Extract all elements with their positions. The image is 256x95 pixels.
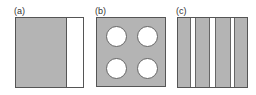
panel-a-label: (a) (14, 6, 25, 16)
panel-b-label: (b) (95, 6, 106, 16)
hole-bottom-left (106, 58, 127, 79)
stripe-gray-3 (215, 18, 231, 87)
panel-a-divider (66, 18, 67, 87)
hole-bottom-right (137, 58, 158, 79)
panel-a-square (15, 17, 84, 88)
hole-top-left (106, 26, 127, 47)
hole-top-right (137, 26, 158, 47)
stripe-gray-1 (178, 18, 191, 87)
stripe-gray-2 (195, 18, 210, 87)
panel-b-square (96, 17, 166, 87)
panel-a-gray-region (16, 18, 66, 87)
panel-c-label: (c) (176, 6, 187, 16)
stripe-gray-4 (234, 18, 248, 87)
panel-c-square (177, 17, 248, 88)
